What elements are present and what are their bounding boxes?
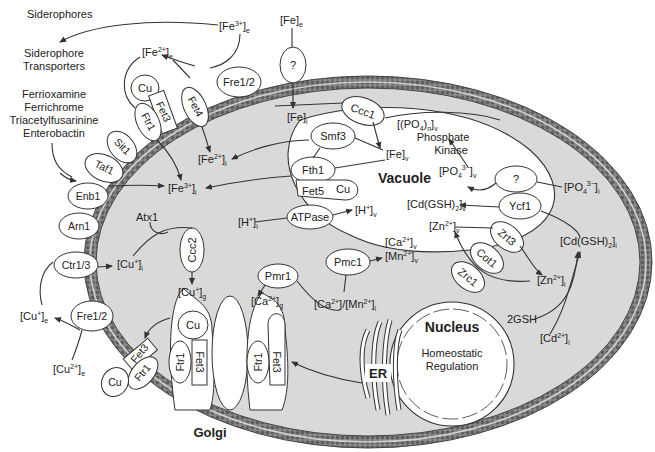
atpase: ATPase xyxy=(291,211,329,223)
golgi-fet3-1: Fet3 xyxy=(194,351,206,372)
pmc1: Pmc1 xyxy=(334,256,362,268)
er-label: ER xyxy=(369,366,388,381)
siderophore-ferrioxamine: Ferrioxamine xyxy=(22,88,86,100)
cu1-extracellular: [Cu+]e xyxy=(20,310,48,324)
cu-top: Cu xyxy=(138,82,152,94)
nucleus: Nucleus Homeostatic Regulation xyxy=(390,302,514,426)
siderophore-transporters-2: Transporters xyxy=(23,60,85,72)
unknown-fe-transporter: ? xyxy=(290,59,296,71)
cu2-extracellular: [Cu2+]e xyxy=(53,363,85,377)
ccc2: Ccc2 xyxy=(186,237,198,262)
smf3: Smf3 xyxy=(320,130,346,142)
nucleus-label: Nucleus xyxy=(425,319,480,335)
cu-vacuole: Cu xyxy=(336,183,350,195)
fet5: Fet5 xyxy=(302,185,324,197)
phosphate-kinase-1: Phosphate xyxy=(417,131,470,143)
golgi-label: Golgi xyxy=(193,425,226,440)
nucleus-note-2: Regulation xyxy=(426,360,479,372)
ctr13: Ctr1/3 xyxy=(62,259,91,271)
vacuole-label: Vacuole xyxy=(378,170,431,186)
zn-cytoplasm: [Zn2+]i xyxy=(537,274,566,288)
golgi-ftr1-2: Ftr1 xyxy=(252,353,264,372)
fre12-bottom: Fre1/2 xyxy=(77,310,108,322)
golgi-ftr1-1: Ftr1 xyxy=(174,353,186,372)
mn-vacuole: [Mn2+]v xyxy=(385,250,418,264)
fe3-cytoplasm: [Fe3+]i xyxy=(168,182,197,196)
siderophore-ferrichrome: Ferrichrome xyxy=(24,101,83,113)
cu-bottom: Cu xyxy=(108,376,122,388)
ca-vacuole: [Ca2+]v xyxy=(385,236,417,250)
cu1-cytoplasm: [Cu+]i xyxy=(117,258,143,272)
polyphosphate-vacuole: [(PO4)n]v xyxy=(397,118,438,132)
fe-cytoplasm: [Fe]i xyxy=(287,111,308,125)
fth1: Fth1 xyxy=(302,164,324,176)
unknown-po4-transporter: ? xyxy=(513,173,519,185)
gsh: 2GSH xyxy=(507,313,537,325)
metal-homeostasis-diagram: Vacuole Nucleus Homeostatic Regulation E… xyxy=(0,0,655,452)
siderophores-label: Siderophores xyxy=(27,8,93,20)
enb1: Enb1 xyxy=(76,190,101,202)
fe3-extracellular: [Fe3+]e xyxy=(219,20,250,34)
siderophore-triacetylfusarinine: Triacetylfusarinine xyxy=(10,114,99,126)
golgi-cu-1: Cu xyxy=(186,319,200,331)
siderophore-transporters-1: Siderophore xyxy=(24,47,84,59)
fre12-top: Fre1/2 xyxy=(223,76,255,88)
atx1: Atx1 xyxy=(136,211,158,223)
fe2-cytoplasm: [Fe2+]i xyxy=(198,153,227,167)
phosphate-kinase-2: Kinase xyxy=(434,144,468,156)
nucleus-note-1: Homeostatic xyxy=(421,347,483,359)
h-cytoplasm: [H+]i xyxy=(238,216,258,230)
cd-cytoplasm: [Cd2+]i xyxy=(540,332,570,346)
ycf1: Ycf1 xyxy=(509,200,531,212)
siderophore-enterobactin: Enterobactin xyxy=(23,127,85,139)
pmr1: Pmr1 xyxy=(265,270,291,282)
golgi-fet3-2: Fet3 xyxy=(271,351,283,372)
po4-cytoplasm: [PO43−]i xyxy=(564,180,600,195)
fe-extracellular: [Fe]e xyxy=(280,14,303,28)
arn1: Arn1 xyxy=(68,220,90,232)
